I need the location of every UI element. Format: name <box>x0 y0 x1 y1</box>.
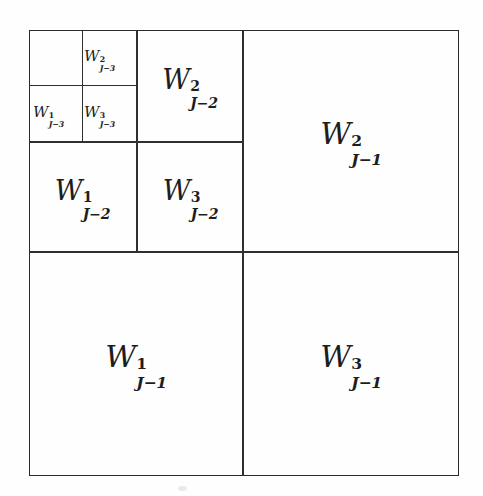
level1-horizontal-divider <box>29 251 459 253</box>
wavelet-packet-tiling-figure: W 2 J−3 W 1 J−3 W 3 J−3 W <box>0 0 483 496</box>
level2-horizontal-divider <box>29 141 243 143</box>
level3-horizontal-divider <box>29 85 137 86</box>
tiling-outer-frame <box>29 30 459 476</box>
level1-vertical-divider <box>242 30 244 476</box>
scan-speckle <box>178 486 187 491</box>
